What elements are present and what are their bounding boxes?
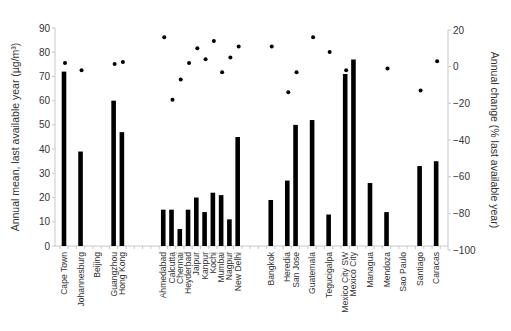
category-label: Johannesburg [76,252,86,307]
left-tick-label: 70 [39,71,51,82]
bar [78,152,83,246]
right-tick-label: −100 [453,245,476,256]
scatter-point [63,61,67,65]
category-label: Santiago [415,252,425,286]
bar [310,120,315,246]
scatter-point [162,35,166,39]
bar [434,161,439,246]
bar [186,210,191,246]
bar [111,101,116,246]
left-axis-title: Annual mean, last available year (µg/m³) [9,43,21,232]
left-tick-label: 20 [39,192,51,203]
bar [235,137,240,246]
scatter-point [204,57,208,61]
scatter-point [295,70,299,74]
left-tick-label: 10 [39,216,51,227]
category-label: Cape Town [59,252,69,295]
bar [351,59,356,246]
scatter-point [228,56,232,60]
bar [62,72,67,246]
scatter-point [311,35,315,39]
category-label: Beijing [92,252,102,278]
category-label: Bangkok [266,251,276,285]
right-tick-label: −60 [453,171,470,182]
bar [293,125,298,246]
scatter-point [435,59,439,63]
right-y-axis: 200−20−40−60−80−100 [448,25,476,256]
category-label: Guatemala [307,252,317,294]
scatter-point [113,62,117,66]
bar [417,166,422,246]
left-tick-label: 0 [44,241,50,252]
bar [177,229,182,246]
scatter-point [195,46,199,50]
scatter-point [171,98,175,102]
x-axis: Cape TownJohannesburgBeijingGuangzhouHon… [55,246,448,313]
scatter-point [344,68,348,72]
right-tick-label: 0 [453,61,459,72]
scatter-point [270,45,274,49]
bar [227,219,232,246]
scatter-point [80,68,84,72]
category-label: Caracas [431,252,441,284]
bar [285,181,290,246]
bar [384,212,389,246]
bar [194,198,199,246]
bar [368,183,373,246]
category-label: San Jose [291,252,301,288]
right-tick-label: 20 [453,25,465,36]
category-label: Managua [365,252,375,288]
category-label: Tegucigalpa [324,252,334,298]
scatter-point [121,60,125,64]
chart: 0102030405060708090 200−20−40−60−80−100 … [0,0,511,331]
category-label: Hong Kong [117,252,127,295]
bar [219,195,224,246]
left-y-axis: 0102030405060708090 [39,23,55,252]
bar [326,215,331,246]
scatter-point [179,78,183,82]
scatter-point [286,90,290,94]
left-tick-label: 30 [39,168,51,179]
category-label: Sao Paulo [398,252,408,292]
right-tick-label: −80 [453,208,470,219]
category-label: Mexico City [348,251,358,296]
left-tick-label: 50 [39,119,51,130]
category-label: New Delhi [233,252,243,291]
scatter-point [237,45,241,49]
left-tick-label: 60 [39,95,51,106]
bar [202,212,207,246]
scatter-point [328,50,332,54]
bar [343,74,348,246]
scatter-series [63,35,439,101]
scatter-point [212,39,216,43]
right-tick-label: −40 [453,135,470,146]
right-axis-title: Annual change (% last available year) [489,52,501,228]
right-tick-label: −20 [453,98,470,109]
bar [169,210,174,246]
left-tick-label: 90 [39,23,51,34]
left-tick-label: 40 [39,144,51,155]
category-label: Mendoza [382,252,392,288]
scatter-point [220,70,224,74]
bar [268,200,273,246]
left-tick-label: 80 [39,47,51,58]
bar [211,193,216,246]
bar [161,210,166,246]
scatter-point [419,89,423,93]
scatter-point [386,67,390,71]
bar [120,132,125,246]
scatter-point [187,61,191,65]
bar-series [62,59,439,246]
